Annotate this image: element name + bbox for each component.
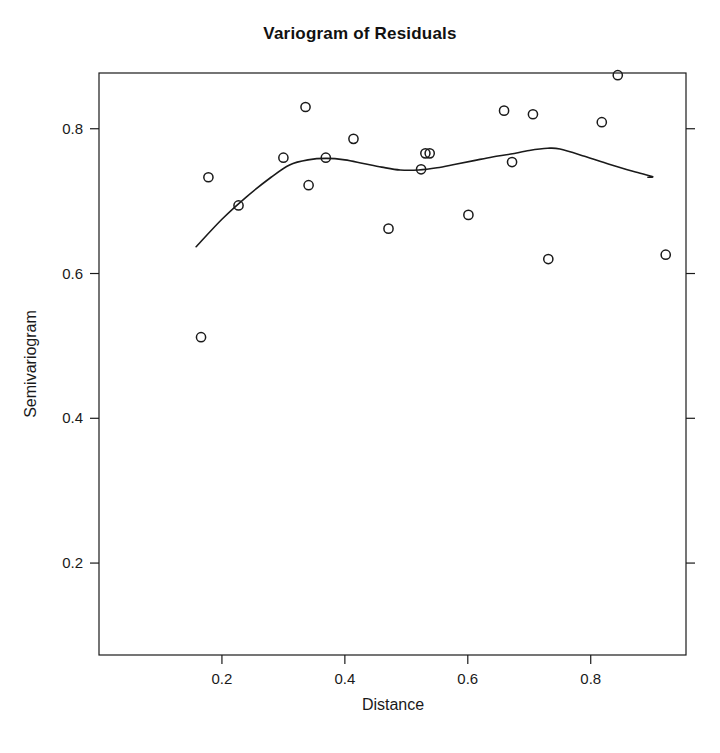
smooth-line-path xyxy=(196,148,653,247)
x-axis-title: Distance xyxy=(362,696,424,713)
data-point xyxy=(661,250,670,259)
data-point xyxy=(384,224,393,233)
y-tick-label: 0.6 xyxy=(62,265,83,282)
y-axis-title: Semivariogram xyxy=(22,310,39,418)
data-point xyxy=(528,110,537,119)
y-tick-label: 0.2 xyxy=(62,554,83,571)
data-point xyxy=(234,201,243,210)
x-tick-label: 0.4 xyxy=(334,670,355,687)
x-axis-ticks: 0.20.40.60.8 xyxy=(212,655,602,687)
variogram-figure: Variogram of Residuals 0.20.40.60.8 0.20… xyxy=(0,0,720,753)
data-point xyxy=(464,210,473,219)
data-point xyxy=(304,181,313,190)
data-point xyxy=(544,254,553,263)
data-point xyxy=(507,157,516,166)
data-point xyxy=(499,106,508,115)
data-point xyxy=(279,153,288,162)
x-tick-label: 0.6 xyxy=(457,670,478,687)
scatter-points xyxy=(196,71,670,342)
plot-canvas: 0.20.40.60.8 0.20.40.60.8 Distance Semiv… xyxy=(0,0,720,753)
data-point xyxy=(204,173,213,182)
data-point xyxy=(196,333,205,342)
y-tick-label: 0.8 xyxy=(62,120,83,137)
data-point xyxy=(349,134,358,143)
y-axis-ticks: 0.20.40.60.8 xyxy=(62,120,695,571)
data-point xyxy=(613,71,622,80)
y-tick-label: 0.4 xyxy=(62,409,83,426)
data-point xyxy=(301,102,310,111)
x-tick-label: 0.2 xyxy=(212,670,233,687)
lowess-smooth-line xyxy=(196,148,653,247)
data-point xyxy=(597,118,606,127)
x-tick-label: 0.8 xyxy=(580,670,601,687)
